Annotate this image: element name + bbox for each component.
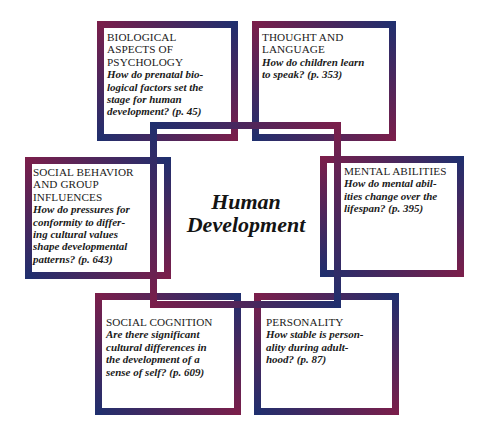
- frame-social-cognition-edge: [95, 293, 241, 300]
- frame-social-behavior-edge: [25, 157, 32, 279]
- box-question: How do children learn to speak? (p. 353): [262, 56, 390, 81]
- frame-mental-abilities-edge: [457, 156, 464, 277]
- box-mental-abilities: MENTAL ABILITIES How do mental abil- iti…: [344, 165, 462, 215]
- box-question: How do prenatal bio- logical factors set…: [107, 68, 232, 118]
- frame-personality-edge: [392, 293, 399, 415]
- frame-social-cognition-edge: [234, 293, 241, 415]
- frame-human-development-edge: [150, 122, 157, 308]
- box-title: SOCIAL BEHAVIOR AND GROUP INFLUENCES: [33, 166, 165, 203]
- frame-social-cognition-edge: [95, 293, 102, 415]
- frame-human-development-edge: [150, 301, 341, 308]
- box-title: BIOLOGICAL ASPECTS OF PSYCHOLOGY: [107, 31, 232, 68]
- box-question: Are there significant cultural differenc…: [106, 328, 238, 378]
- frame-mental-abilities-edge: [320, 156, 464, 163]
- box-social-cognition: SOCIAL COGNITION Are there significant c…: [106, 316, 238, 378]
- box-personality: PERSONALITY How stable is person- ality …: [266, 316, 394, 366]
- frame-biological-edge: [97, 21, 238, 28]
- frame-personality-edge: [254, 408, 399, 415]
- frame-social-behavior-edge: [164, 157, 171, 279]
- box-question: How do mental abil- ities change over th…: [344, 177, 462, 214]
- box-title: MENTAL ABILITIES: [344, 165, 462, 177]
- frame-mental-abilities-edge: [320, 270, 464, 277]
- box-question: How stable is person- ality during adult…: [266, 328, 394, 365]
- box-title: PERSONALITY: [266, 316, 394, 328]
- box-title: SOCIAL COGNITION: [106, 316, 238, 328]
- frame-biological-edge: [97, 134, 238, 141]
- frame-thought-language-edge: [252, 134, 396, 141]
- box-thought-language: THOUGHT AND LANGUAGE How do children lea…: [262, 31, 390, 81]
- frame-personality-edge: [254, 293, 399, 300]
- frame-mental-abilities-edge: [320, 156, 327, 277]
- frame-social-cognition-edge: [95, 408, 241, 415]
- box-social-behavior: SOCIAL BEHAVIOR AND GROUP INFLUENCES How…: [33, 166, 165, 265]
- box-title: THOUGHT AND LANGUAGE: [262, 31, 390, 56]
- box-question: How do pressures for conformity to diffe…: [33, 203, 165, 265]
- box-biological: BIOLOGICAL ASPECTS OF PSYCHOLOGY How do …: [107, 31, 232, 118]
- center-title: Human Development: [160, 190, 332, 236]
- frame-human-development-edge: [150, 122, 341, 129]
- frame-biological-edge: [97, 21, 104, 141]
- frame-thought-language-edge: [389, 21, 396, 141]
- frame-thought-language-edge: [252, 21, 396, 28]
- frame-personality-edge: [254, 293, 261, 415]
- frame-human-development-edge: [334, 122, 341, 308]
